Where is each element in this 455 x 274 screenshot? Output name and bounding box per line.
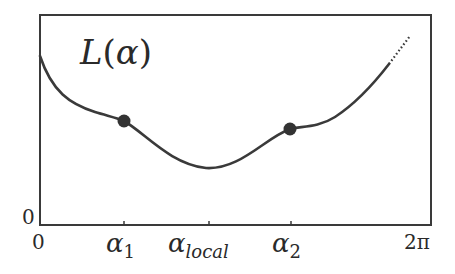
point-alpha2 [284,123,297,136]
loss-curve [40,56,389,168]
x-label-alpha1: α1 [106,228,135,262]
point-alpha1 [118,115,131,128]
y-axis-zero-label: 0 [22,205,35,229]
x-label-alpha2: α2 [272,228,301,262]
x-label-alpha-local: αlocal [168,228,229,262]
x-label-two-pi: 2π [404,230,430,254]
x-label-zero: 0 [32,230,45,254]
loss-curve-dotted-extension [389,36,410,64]
curve-title: L(α) [79,32,152,72]
loss-curve-diagram: L(α) 0 0 α1 αlocal α2 2π [0,0,455,274]
